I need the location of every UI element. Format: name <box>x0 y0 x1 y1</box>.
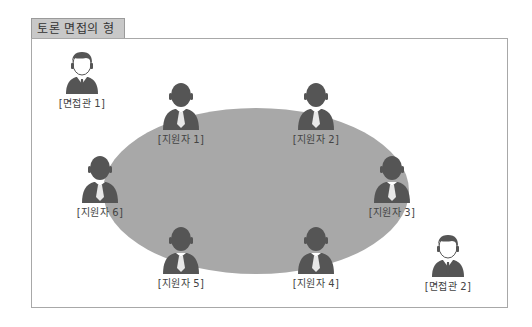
interviewer-2-label: [면접관 2] <box>418 278 478 293</box>
interviewer-icon <box>64 50 100 94</box>
interviewer-1-label: [면접관 1] <box>52 95 112 110</box>
candidate-icon <box>298 82 334 130</box>
candidate-1: [지원자 1] <box>151 82 211 146</box>
candidate-2-label: [지원자 2] <box>286 131 346 146</box>
candidate-icon <box>82 155 118 203</box>
candidate-3-label: [지원자 3] <box>362 204 422 219</box>
candidate-4: [지원자 4] <box>286 226 346 290</box>
diagram-title: 토론 면접의 형태 <box>31 18 125 38</box>
candidate-icon <box>374 155 410 203</box>
candidate-icon <box>163 226 199 274</box>
interviewer-2: [면접관 2] <box>418 233 478 293</box>
candidate-3: [지원자 3] <box>362 155 422 219</box>
interviewer-1: [면접관 1] <box>52 50 112 110</box>
candidate-2: [지원자 2] <box>286 82 346 146</box>
interviewer-icon <box>430 233 466 277</box>
candidate-5-label: [지원자 5] <box>151 275 211 290</box>
candidate-icon <box>163 82 199 130</box>
candidate-6: [지원자 6] <box>70 155 130 219</box>
candidate-4-label: [지원자 4] <box>286 275 346 290</box>
candidate-1-label: [지원자 1] <box>151 131 211 146</box>
candidate-icon <box>298 226 334 274</box>
candidate-6-label: [지원자 6] <box>70 204 130 219</box>
candidate-5: [지원자 5] <box>151 226 211 290</box>
